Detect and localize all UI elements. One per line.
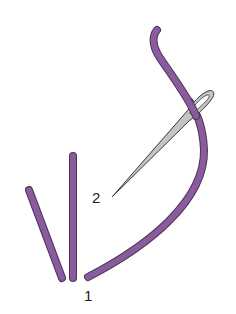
diagonal-stitch [29, 190, 62, 278]
stitch-diagram: 2 1 [0, 0, 236, 314]
point-1-label: 1 [84, 288, 92, 303]
working-thread-upper [154, 30, 196, 116]
working-thread-lower [88, 102, 204, 277]
point-2-label: 2 [92, 190, 100, 205]
